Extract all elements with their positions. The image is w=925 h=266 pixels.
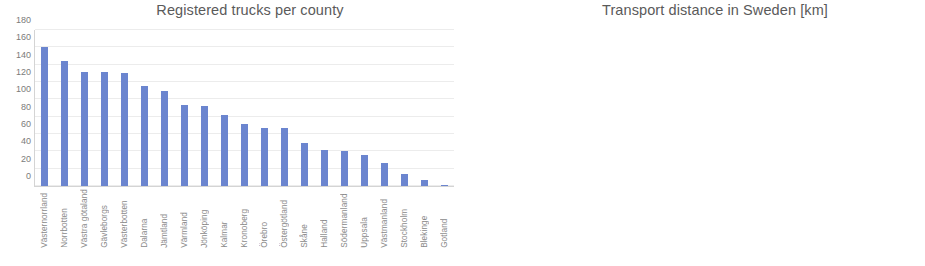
bar[interactable] [361, 155, 368, 186]
x-axis-tick-label: Örebro [260, 189, 269, 248]
bar-slot [414, 30, 434, 186]
x-axis-tick-label: Västra götaland [80, 189, 89, 248]
bar[interactable] [81, 72, 88, 186]
bar-slot [115, 30, 135, 186]
bar-slot [314, 30, 334, 186]
bar[interactable] [161, 91, 168, 186]
bar[interactable] [201, 106, 208, 186]
x-axis-tick-label: Norrbotten [60, 189, 69, 248]
x-axis-label-slot: Jönköping [195, 186, 215, 248]
x-axis-tick-label: Jämtland [160, 189, 169, 248]
bar[interactable] [341, 151, 348, 186]
x-axis-tick-label: Skåne [300, 189, 309, 248]
x-axis-labels-left: VästernorrlandNorrbottenVästra götalandG… [35, 186, 454, 248]
y-axis-tick-label: 100 [16, 84, 31, 94]
figure-container: Registered trucks per county 18016014012… [0, 0, 925, 266]
chart-registered-trucks-per-county: Registered trucks per county 18016014012… [0, 0, 470, 266]
bar-slot [135, 30, 155, 186]
x-axis-tick-label: Värmland [180, 189, 189, 248]
x-axis-label-slot: Blekinge [414, 186, 434, 248]
bar[interactable] [121, 73, 128, 186]
bar-slot [55, 30, 75, 186]
x-axis-label-slot: Östergötland [274, 186, 294, 248]
x-axis-label-slot: Kronoberg [235, 186, 255, 248]
chart-transport-distance-sweden: Transport distance in Sweden [km] 504540… [470, 0, 925, 266]
chart-title-right: Transport distance in Sweden [km] [470, 2, 925, 18]
bar[interactable] [181, 105, 188, 186]
x-axis-tick-label: Halland [320, 189, 329, 248]
y-axis-tick-label: 20 [21, 154, 31, 164]
bar-series-left [35, 30, 454, 186]
bar-slot [175, 30, 195, 186]
bar[interactable] [321, 150, 328, 186]
bar[interactable] [41, 47, 48, 186]
bar-slot [274, 30, 294, 186]
x-axis-tick-label: Kalmar [220, 189, 229, 248]
bar[interactable] [281, 128, 288, 186]
bar-slot [35, 30, 55, 186]
x-axis-tick-label: Västernorrland [40, 189, 49, 248]
x-axis-label-slot: Gävleborgs [95, 186, 115, 248]
x-axis-tick-label: Gävleborgs [100, 189, 109, 248]
bar-slot [95, 30, 115, 186]
bar[interactable] [401, 174, 408, 186]
y-axis-tick-label: 60 [21, 119, 31, 129]
bar-slot [374, 30, 394, 186]
bar-slot [75, 30, 95, 186]
x-axis-label-slot: Örebro [254, 186, 274, 248]
x-axis-tick-label: Västerbotten [120, 189, 129, 248]
x-axis-label-slot: Stockholm [394, 186, 414, 248]
x-axis-label-slot: Gotland [434, 186, 454, 248]
x-axis-label-slot: Södermanland [334, 186, 354, 248]
bar[interactable] [61, 61, 68, 186]
x-axis-tick-label: Södermanland [340, 189, 349, 248]
x-axis-label-slot: Uppsala [354, 186, 374, 248]
y-axis-tick-label: 140 [16, 50, 31, 60]
y-axis-tick-label: 80 [21, 102, 31, 112]
bar[interactable] [241, 124, 248, 186]
bar[interactable] [381, 163, 388, 186]
bar[interactable] [101, 72, 108, 186]
y-axis-tick-label: 120 [16, 67, 31, 77]
bar[interactable] [221, 115, 228, 186]
bar-slot [155, 30, 175, 186]
bar-slot [354, 30, 374, 186]
x-axis-label-slot: Västernorrland [35, 186, 55, 248]
x-axis-label-slot: Jämtland [155, 186, 175, 248]
bar[interactable] [301, 143, 308, 186]
x-axis-label-slot: Värmland [175, 186, 195, 248]
x-axis-tick-label: Gotland [440, 189, 449, 248]
x-axis-label-slot: Västerbotten [115, 186, 135, 248]
x-axis-label-slot: Norrbotten [55, 186, 75, 248]
x-axis-label-slot: Halland [314, 186, 334, 248]
x-axis-tick-label: Kronoberg [240, 189, 249, 248]
y-axis-tick-label: 180 [16, 15, 31, 25]
x-axis-label-slot: Kalmar [215, 186, 235, 248]
chart-title-left: Registered trucks per county [0, 2, 470, 18]
y-axis-tick-label: 0 [26, 171, 31, 181]
plot-area-left: 180160140120100806040200 VästernorrlandN… [34, 30, 454, 187]
bar-slot [254, 30, 274, 186]
x-axis-tick-label: Östergötland [280, 189, 289, 248]
y-axis-tick-label: 160 [16, 32, 31, 42]
bar-slot [195, 30, 215, 186]
bar[interactable] [141, 86, 148, 186]
y-axis-tick-label: 40 [21, 136, 31, 146]
x-axis-tick-label: Uppsala [360, 189, 369, 248]
bar-slot [394, 30, 414, 186]
x-axis-label-slot: Skåne [294, 186, 314, 248]
bar-slot [334, 30, 354, 186]
x-axis-tick-label: Dalarna [140, 189, 149, 248]
bar-slot [434, 30, 454, 186]
x-axis-tick-label: Stockholm [400, 189, 409, 248]
x-axis-label-slot: Dalarna [135, 186, 155, 248]
bar[interactable] [261, 128, 268, 186]
x-axis-tick-label: Västmanland [380, 189, 389, 248]
x-axis-label-slot: Västmanland [374, 186, 394, 248]
bar-slot [215, 30, 235, 186]
bar-slot [294, 30, 314, 186]
x-axis-tick-label: Blekinge [420, 189, 429, 248]
bar-slot [235, 30, 255, 186]
x-axis-tick-label: Jönköping [200, 189, 209, 248]
x-axis-label-slot: Västra götaland [75, 186, 95, 248]
